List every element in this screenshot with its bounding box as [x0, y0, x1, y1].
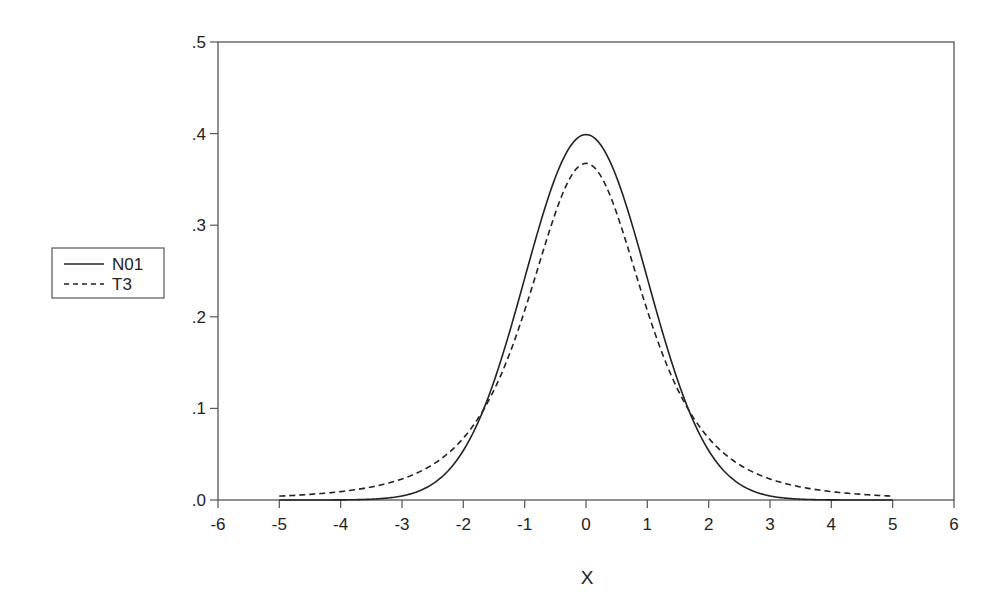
x-tick-label: 0 — [581, 515, 590, 534]
y-tick-label: .1 — [192, 399, 206, 418]
y-axis: .0.1.2.3.4.5 — [192, 33, 218, 510]
legend-box — [52, 248, 164, 298]
legend: N01 T3 — [52, 248, 164, 298]
x-tick-label: -3 — [394, 515, 409, 534]
x-tick-label: 1 — [643, 515, 652, 534]
plot-frame — [218, 42, 954, 500]
y-tick-label: .4 — [192, 125, 206, 144]
x-tick-label: -5 — [272, 515, 287, 534]
x-tick-label: -2 — [456, 515, 471, 534]
x-tick-label: -1 — [517, 515, 532, 534]
x-tick-label: 5 — [888, 515, 897, 534]
x-tick-label: -4 — [333, 515, 348, 534]
x-tick-label: -6 — [210, 515, 225, 534]
legend-label-t3: T3 — [112, 275, 132, 294]
y-tick-label: .5 — [192, 33, 206, 52]
x-tick-label: 2 — [704, 515, 713, 534]
x-axis-title: X — [581, 567, 594, 588]
x-axis: -6-5-4-3-2-10123456 — [210, 500, 958, 534]
x-tick-label: 3 — [765, 515, 774, 534]
x-tick-label: 6 — [949, 515, 958, 534]
y-tick-label: .2 — [192, 308, 206, 327]
x-tick-label: 4 — [827, 515, 836, 534]
legend-label-n01: N01 — [112, 255, 143, 274]
y-tick-label: .0 — [192, 491, 206, 510]
y-tick-label: .3 — [192, 216, 206, 235]
chart: .0.1.2.3.4.5 -6-5-4-3-2-10123456 X N01 T… — [0, 0, 1004, 613]
